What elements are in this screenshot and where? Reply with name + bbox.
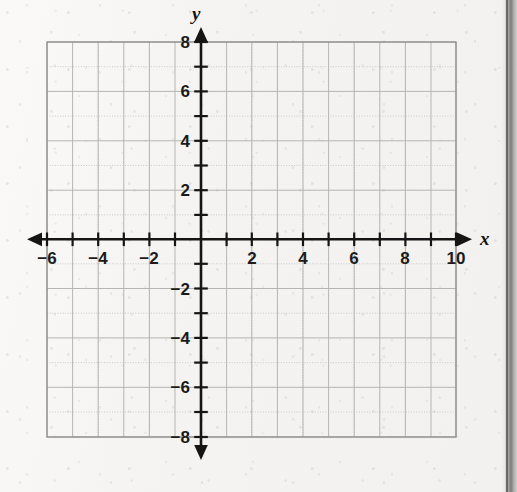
x-axis bbox=[27, 232, 472, 246]
x-tick-label--4: −4 bbox=[88, 250, 107, 267]
x-tick-label--2: −2 bbox=[139, 250, 158, 267]
y-axis-label: y bbox=[192, 4, 200, 23]
coordinate-plane: −6 −4 −2 2 4 6 8 10 8 6 4 2 −2 −4 −6 −8 … bbox=[0, 0, 517, 492]
x-tick-label-8: 8 bbox=[400, 250, 409, 267]
y-tick-label-6: 6 bbox=[181, 83, 190, 100]
grid-and-axes-svg bbox=[0, 0, 517, 492]
y-tick-label-8: 8 bbox=[181, 34, 190, 51]
x-tick-label-4: 4 bbox=[298, 250, 307, 267]
y-axis-top-arrow bbox=[194, 27, 208, 42]
y-tick-label-4: 4 bbox=[181, 133, 190, 150]
y-axis bbox=[194, 27, 208, 460]
y-tick-label--2: −2 bbox=[171, 281, 190, 298]
y-tick-label--8: −8 bbox=[171, 429, 190, 446]
x-tick-label-6: 6 bbox=[349, 250, 358, 267]
x-axis-left-arrow bbox=[27, 232, 42, 246]
y-tick-label-2: 2 bbox=[181, 182, 190, 199]
y-axis-bottom-arrow bbox=[194, 445, 208, 460]
y-tick-label--6: −6 bbox=[171, 379, 190, 396]
worksheet-page: −6 −4 −2 2 4 6 8 10 8 6 4 2 −2 −4 −6 −8 … bbox=[0, 0, 517, 492]
x-axis-right-arrow bbox=[457, 232, 472, 246]
x-tick-label--6: −6 bbox=[37, 250, 56, 267]
x-tick-label-10: 10 bbox=[447, 250, 466, 267]
x-axis-label: x bbox=[480, 229, 490, 248]
x-tick-label-2: 2 bbox=[247, 250, 256, 267]
y-tick-label--4: −4 bbox=[171, 330, 190, 347]
